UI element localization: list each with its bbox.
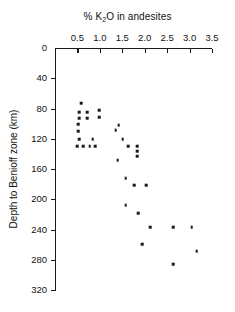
- x-tick-mark: [122, 49, 123, 53]
- data-point: [76, 145, 79, 148]
- y-tick-label: 0: [17, 42, 47, 53]
- y-tick-label: 120: [17, 133, 47, 144]
- y-tick-mark: [51, 139, 56, 140]
- data-point: [117, 159, 120, 162]
- data-point: [172, 263, 175, 266]
- y-tick-label: 280: [17, 254, 47, 265]
- data-point: [98, 109, 101, 112]
- x-tick-mark: [145, 49, 146, 53]
- y-tick-mark: [51, 199, 56, 200]
- plot-area: 0.51.01.52.02.53.03.5 040801201602002402…: [55, 48, 212, 290]
- chart-title-post: O in andesites: [106, 11, 171, 22]
- data-point: [78, 117, 81, 120]
- data-point: [125, 177, 128, 180]
- chart-title: % K2O in andesites: [0, 11, 235, 22]
- data-point: [78, 111, 81, 114]
- chart-title-subscript: 2: [102, 16, 106, 23]
- data-point: [145, 184, 148, 187]
- data-point: [137, 212, 140, 215]
- x-tick-label: 3.5: [199, 32, 225, 43]
- data-point: [117, 124, 120, 127]
- data-point: [94, 145, 97, 148]
- y-tick-mark: [51, 78, 56, 79]
- x-tick-mark: [100, 49, 101, 53]
- y-tick-mark: [51, 169, 56, 170]
- y-tick-label: 160: [17, 163, 47, 174]
- x-tick-mark: [77, 49, 78, 53]
- y-tick-mark: [51, 290, 56, 291]
- data-point: [114, 129, 117, 132]
- x-tick-mark: [212, 49, 213, 53]
- chart-figure: % K2O in andesites 0.51.01.52.02.53.03.5…: [0, 0, 235, 312]
- x-tick-mark: [190, 49, 191, 53]
- data-point: [125, 204, 128, 207]
- chart-title-pre: % K: [84, 11, 103, 22]
- data-point: [136, 150, 139, 153]
- y-tick-label: 200: [17, 193, 47, 204]
- data-point: [78, 138, 81, 141]
- data-point: [195, 250, 198, 253]
- data-point: [136, 145, 139, 148]
- data-point: [77, 123, 80, 126]
- y-tick-label: 240: [17, 224, 47, 235]
- data-point: [86, 117, 89, 120]
- data-point: [127, 145, 130, 148]
- data-point: [80, 102, 83, 105]
- data-point: [136, 155, 139, 158]
- data-point: [141, 243, 144, 246]
- y-tick-label: 320: [17, 284, 47, 295]
- data-point: [172, 226, 175, 229]
- data-point: [149, 226, 152, 229]
- y-tick-mark: [51, 260, 56, 261]
- data-point: [98, 116, 101, 119]
- y-tick-mark: [51, 230, 56, 231]
- data-point: [133, 184, 136, 187]
- y-axis-label: Depth to Benioff zone (km): [8, 110, 19, 229]
- y-tick-label: 80: [17, 103, 47, 114]
- data-point: [121, 138, 124, 141]
- y-tick-mark: [51, 109, 56, 110]
- y-tick-label: 40: [17, 72, 47, 83]
- x-tick-mark: [167, 49, 168, 53]
- data-point: [86, 111, 89, 114]
- data-point: [77, 130, 80, 133]
- data-point: [191, 226, 194, 229]
- data-point: [91, 138, 94, 141]
- data-point: [82, 145, 85, 148]
- data-point: [88, 145, 91, 148]
